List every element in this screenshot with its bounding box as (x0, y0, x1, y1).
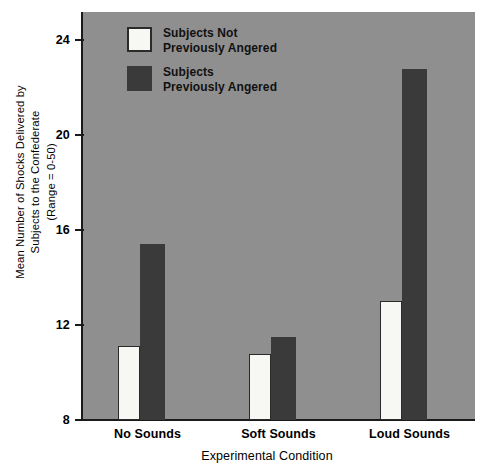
y-axis-tick-mark (75, 419, 84, 421)
y-axis-title-line-2: Subjects to the Confederate (28, 111, 44, 254)
y-axis-tick-label: 8 (40, 413, 70, 427)
x-axis-title: Experimental Condition (0, 449, 492, 463)
y-axis-title-line-3: (Range = 0-50) (44, 143, 60, 221)
legend-swatch-light (127, 27, 152, 52)
x-axis-title-text: Experimental Condition (201, 449, 332, 463)
bar-no-sounds-angered (140, 244, 165, 420)
y-axis-tick-mark (75, 229, 84, 231)
legend-label-2: Subjects Previously Angered (163, 65, 277, 94)
bar-soft-sounds-not-angered (249, 354, 271, 420)
y-axis-line (81, 12, 83, 421)
y-axis-tick-mark (75, 134, 84, 136)
y-axis-tick-mark (75, 324, 84, 326)
legend-item-2: Subjects Previously Angered (127, 65, 277, 94)
bar-soft-sounds-angered (271, 337, 296, 420)
chart-legend: Subjects Not Previously AngeredSubjects … (127, 26, 277, 94)
legend-item-1: Subjects Not Previously Angered (127, 26, 277, 55)
y-axis-title: Mean Number of Shocks Delivered by Subje… (10, 42, 62, 322)
x-axis-label-loud-sounds: Loud Sounds (369, 427, 450, 441)
bar-loud-sounds-angered (402, 69, 427, 420)
bar-loud-sounds-not-angered (380, 301, 402, 420)
legend-label-1: Subjects Not Previously Angered (163, 26, 277, 55)
bar-no-sounds-not-angered (118, 346, 140, 420)
x-axis-label-no-sounds: No Sounds (114, 427, 181, 441)
bar-chart-figure: 812162024 No SoundsSoft SoundsLoud Sound… (0, 0, 492, 471)
y-axis-tick-mark (75, 39, 84, 41)
legend-swatch-dark (127, 66, 152, 91)
y-axis-tick-label-text: 8 (40, 413, 70, 427)
x-axis-label-soft-sounds: Soft Sounds (241, 427, 316, 441)
y-axis-title-line-1: Mean Number of Shocks Delivered by (13, 85, 29, 279)
